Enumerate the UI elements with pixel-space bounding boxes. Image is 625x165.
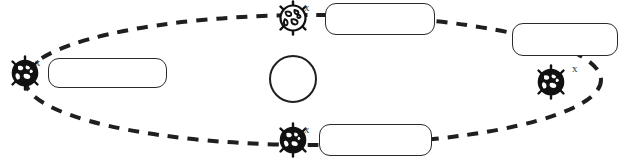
x-label-bottom: x <box>304 124 310 135</box>
x-label-left: x <box>35 57 41 68</box>
label-box-left-text <box>49 59 166 87</box>
label-box-bottom-text <box>320 125 431 155</box>
orbit-diagram: x x <box>0 0 625 165</box>
x-label-right: x <box>572 63 578 74</box>
label-box-top-text <box>326 4 434 34</box>
sun-circle <box>269 55 317 103</box>
label-box-top[interactable] <box>325 3 435 35</box>
earth-globe-right-icon <box>533 64 569 100</box>
label-box-bottom[interactable] <box>319 124 432 156</box>
label-box-right[interactable] <box>512 23 618 56</box>
label-box-right-text <box>513 24 617 55</box>
x-label-top: x <box>304 2 310 13</box>
label-box-left[interactable] <box>48 58 167 88</box>
